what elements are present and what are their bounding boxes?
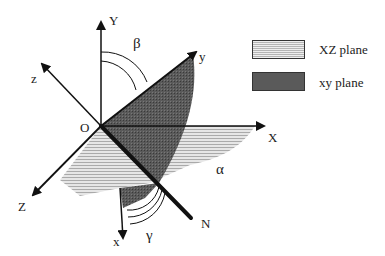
- axis-label-N: N: [201, 217, 210, 230]
- axis-label-x: x: [113, 235, 120, 248]
- axis-label-z: z: [31, 72, 37, 85]
- axis-label-Y: Y: [109, 14, 118, 27]
- angle-beta: β: [133, 36, 141, 51]
- beta-arc-inner: [101, 61, 136, 90]
- diagram-canvas: [0, 0, 385, 256]
- axis-label-y: y: [199, 50, 206, 63]
- legend-label-xz: XZ plane: [319, 42, 368, 58]
- axis-label-Z: Z: [18, 200, 26, 213]
- legend-swatch-xz: [252, 40, 305, 59]
- angle-alpha: α: [216, 162, 224, 177]
- angle-gamma: γ: [146, 228, 153, 243]
- axis-label-X: X: [268, 131, 277, 144]
- origin-label: O: [80, 121, 89, 134]
- legend-label-xy: xy plane: [319, 75, 363, 91]
- legend-swatch-xy: [252, 72, 305, 91]
- beta-arc-outer: [101, 52, 147, 82]
